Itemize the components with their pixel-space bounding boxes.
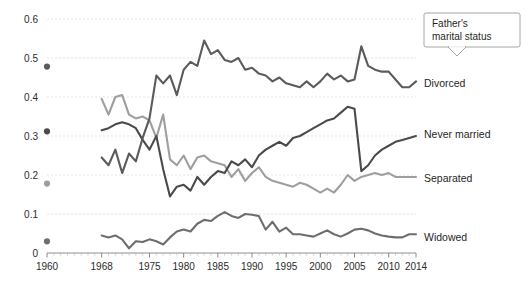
y-tick-label-0.5: 0.5 <box>24 53 38 64</box>
anchor-dot-separated <box>44 180 50 186</box>
y-tick-label-0.6: 0.6 <box>24 14 38 25</box>
y-tick-label-0.4: 0.4 <box>24 92 38 103</box>
anchor-dot-divorced <box>44 63 50 69</box>
series-label-never-married: Never married <box>424 128 491 140</box>
x-tick-label-1968: 1968 <box>91 261 114 272</box>
y-tick-label-0: 0 <box>32 248 38 259</box>
series-label-widowed: Widowed <box>424 231 467 243</box>
y-tick-label-0.3: 0.3 <box>24 131 38 142</box>
x-tick-label-2010: 2010 <box>378 261 401 272</box>
x-tick-label-1985: 1985 <box>207 261 230 272</box>
x-tick-label-2014: 2014 <box>405 261 428 272</box>
chart-canvas: 00.10.20.30.40.50.6 19601968197519801985… <box>0 0 529 294</box>
x-tick-label-1995: 1995 <box>275 261 298 272</box>
callout-line-1: Father's <box>432 18 468 29</box>
y-tick-label-0.2: 0.2 <box>24 170 38 181</box>
anchor-dot-never-married <box>44 128 50 134</box>
marital-status-line-chart: 00.10.20.30.40.50.6 19601968197519801985… <box>0 0 529 294</box>
x-tick-label-1975: 1975 <box>138 261 161 272</box>
x-tick-label-1990: 1990 <box>241 261 264 272</box>
x-tick-label-2005: 2005 <box>343 261 366 272</box>
anchor-dot-widowed <box>44 238 50 244</box>
y-tick-label-0.1: 0.1 <box>24 209 38 220</box>
series-label-divorced: Divorced <box>424 77 466 89</box>
x-tick-label-2000: 2000 <box>309 261 332 272</box>
x-tick-label-1980: 1980 <box>173 261 196 272</box>
callout-line-2: marital status <box>432 31 491 42</box>
series-label-separated: Separated <box>424 172 473 184</box>
x-tick-label-1960: 1960 <box>36 261 59 272</box>
